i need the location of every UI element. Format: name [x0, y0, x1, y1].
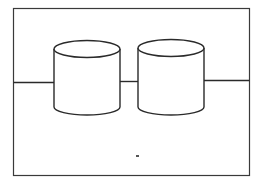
frame-border: [14, 9, 250, 176]
cylinder-1-body: [54, 49, 120, 115]
cylinder-1-top: [54, 41, 120, 58]
cylinder-2[interactable]: [138, 40, 204, 116]
cylinder-1[interactable]: [54, 41, 120, 116]
cylinder-2-body: [138, 48, 204, 115]
diagram-canvas: [0, 0, 262, 184]
cylinder-2-top: [138, 40, 204, 57]
small-mark: [136, 155, 139, 157]
